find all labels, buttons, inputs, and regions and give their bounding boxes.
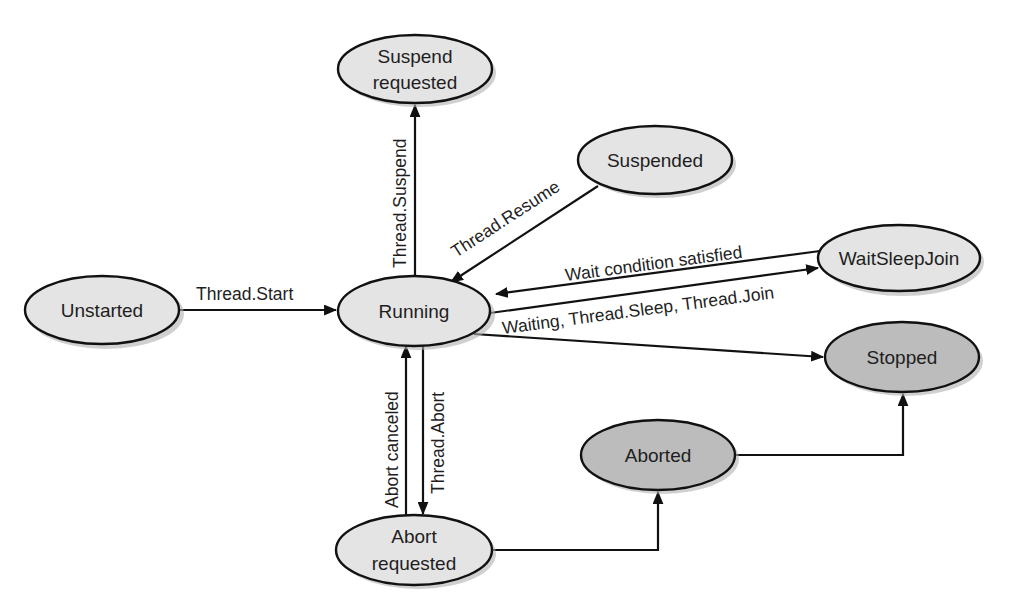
state-abort-requested: Abort requested [336,515,496,589]
state-label: Running [379,301,450,322]
state-suspended: Suspended [578,126,736,198]
state-label: Suspended [607,150,703,171]
label-abort-canceled: Abort canceled [382,391,402,508]
state-label-line1: Suspend [377,46,452,67]
state-label: WaitSleepJoin [839,248,960,269]
state-running: Running [338,276,495,350]
state-label: Unstarted [61,300,143,321]
state-suspend-requested: Suspend requested [338,35,496,107]
state-label-line1: Abort [391,526,437,547]
label-thread-suspend: Thread.Suspend [390,139,410,268]
transition-thread-suspend: Thread.Suspend [390,105,415,276]
label-wait-condition-satisfied: Wait condition satisfied [564,242,743,285]
transition-abort-canceled: Abort canceled [382,346,406,515]
transition-thread-abort: Thread.Abort [423,346,448,514]
state-label: Aborted [625,445,692,466]
state-aborted: Aborted [581,420,739,494]
transition-thread-start: Thread.Start [180,284,336,310]
state-stopped: Stopped [825,322,983,396]
transition-aborted-to-stopped [735,394,903,455]
thread-state-diagram: Thread.Start Thread.Suspend Thread.Resum… [0,0,1013,608]
transition-waiting-sleep-join: Waiting, Thread.Sleep, Thread.Join [490,268,818,338]
state-wait-sleep-join: WaitSleepJoin [818,225,984,296]
state-unstarted: Unstarted [25,276,184,349]
state-label: Stopped [867,347,938,368]
state-label-line2: requested [373,72,458,93]
transition-running-to-stopped [474,334,823,357]
label-waiting-sleep-join: Waiting, Thread.Sleep, Thread.Join [501,282,775,338]
transition-abort-requested-to-aborted [492,492,658,550]
label-thread-start: Thread.Start [196,284,293,304]
state-label-line2: requested [372,553,457,574]
label-thread-abort: Thread.Abort [428,392,448,494]
